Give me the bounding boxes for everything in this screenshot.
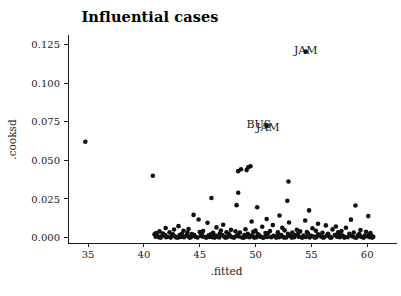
data-point: [236, 190, 241, 195]
data-point: [260, 235, 265, 240]
data-point: [344, 225, 349, 230]
data-point: [239, 167, 244, 172]
data-point: [168, 235, 173, 240]
point-label: JAM: [255, 121, 280, 134]
data-point: [337, 235, 342, 240]
data-point: [328, 235, 333, 240]
data-point: [196, 217, 201, 222]
data-point: [358, 228, 363, 233]
data-point: [217, 235, 222, 240]
data-point: [307, 208, 312, 213]
data-point: [176, 224, 181, 229]
influential-cases-chart: Influential cases 0.0000.0250.0500.0750.…: [0, 0, 401, 296]
data-point: [172, 227, 177, 232]
data-point: [370, 235, 375, 240]
data-point: [289, 235, 294, 240]
point-label: JAM: [293, 44, 318, 57]
data-point: [248, 164, 253, 169]
data-point: [176, 235, 181, 240]
data-point: [354, 235, 359, 240]
data-point: [287, 220, 292, 225]
y-axis-ticks: 0.0000.0250.0500.0750.1000.125: [31, 39, 68, 243]
x-tick-label: 40: [138, 249, 151, 260]
data-point: [234, 203, 239, 208]
x-tick-label: 50: [249, 249, 262, 260]
data-point: [366, 214, 371, 219]
data-point: [209, 196, 214, 201]
data-point: [255, 205, 260, 210]
y-tick-label: 0.050: [31, 155, 60, 166]
data-point: [252, 235, 257, 240]
data-point: [349, 217, 354, 222]
data-point: [223, 235, 228, 240]
data-point: [83, 140, 88, 145]
data-point: [151, 174, 156, 179]
y-axis-group: 0.0000.0250.0500.0750.1000.125 .cooksd: [6, 35, 68, 243]
x-tick-label: 35: [82, 249, 95, 260]
data-point: [214, 225, 219, 230]
data-point: [163, 226, 168, 231]
y-tick-label: 0.025: [31, 194, 60, 205]
data-point: [182, 235, 187, 240]
data-point: [271, 223, 276, 228]
data-point: [342, 235, 347, 240]
data-point: [158, 235, 163, 240]
x-tick-label: 45: [193, 249, 206, 260]
data-point: [247, 235, 252, 240]
data-point: [307, 235, 312, 240]
data-point: [191, 213, 196, 218]
scatter-plot-canvas: 0.0000.0250.0500.0750.1000.125 .cooksd 3…: [0, 0, 401, 296]
data-point: [269, 235, 274, 240]
data-point: [321, 235, 326, 240]
data-point: [212, 235, 217, 240]
y-tick-label: 0.125: [31, 39, 60, 50]
data-point: [300, 235, 305, 240]
data-point: [204, 235, 209, 240]
data-point: [243, 227, 248, 232]
data-point: [282, 235, 287, 240]
data-point: [244, 168, 249, 173]
x-axis-group: 354045505560 .fitted: [68, 243, 397, 277]
data-points-group: [83, 49, 376, 240]
data-point: [205, 220, 210, 225]
data-point: [361, 235, 366, 240]
data-point: [303, 218, 308, 223]
data-point: [353, 203, 358, 208]
data-point: [277, 213, 282, 218]
data-point: [164, 235, 169, 240]
data-point: [231, 235, 236, 240]
data-point: [264, 217, 269, 222]
y-axis-title: .cooksd: [6, 119, 18, 160]
data-point: [260, 224, 265, 229]
x-axis-ticks: 354045505560: [82, 243, 374, 260]
data-point: [221, 222, 226, 227]
data-point: [285, 199, 290, 204]
y-tick-label: 0.000: [31, 232, 60, 243]
x-tick-label: 60: [361, 249, 374, 260]
x-tick-label: 55: [305, 249, 318, 260]
data-point: [312, 235, 317, 240]
data-point: [316, 221, 321, 226]
data-point: [286, 179, 291, 184]
data-point: [274, 235, 279, 240]
data-point: [282, 228, 287, 233]
data-point: [187, 235, 192, 240]
data-point: [195, 235, 200, 240]
y-tick-label: 0.100: [31, 78, 60, 89]
data-point: [324, 223, 329, 228]
data-point: [229, 228, 234, 233]
data-point: [330, 227, 335, 232]
point-annotations-group: JAMBUSJAM: [246, 44, 317, 134]
data-point: [249, 219, 254, 224]
x-axis-title: .fitted: [211, 265, 243, 277]
y-tick-label: 0.075: [31, 116, 60, 127]
data-point: [242, 235, 247, 240]
